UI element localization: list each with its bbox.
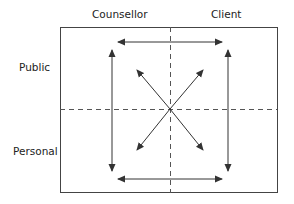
diagonal-arrow-down-right	[170, 109, 203, 150]
quadrant-diagram	[0, 0, 294, 204]
diagonal-arrow-up-right	[170, 70, 203, 109]
diagonal-arrow-down-left	[137, 109, 170, 150]
diagonal-arrow-up-left	[137, 70, 170, 109]
